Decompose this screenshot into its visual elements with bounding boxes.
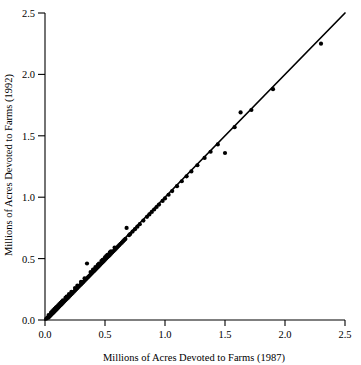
x-axis-tick-labels: 0.00.51.01.52.02.5 [38,329,351,340]
data-point [185,174,189,178]
x-axis: 0.00.51.01.52.02.5 [38,320,351,340]
data-point [180,179,184,183]
data-point [170,189,174,193]
y-tick-label: 1.5 [22,131,35,142]
data-point [125,226,129,230]
data-point [223,151,227,155]
y-tick-label: 1.0 [22,192,35,203]
data-point [85,261,89,265]
data-point [216,142,220,146]
y-tick-label: 2.5 [22,8,35,19]
data-point [271,87,275,91]
data-point [123,237,127,241]
scatter-plot-figure: 0.00.51.01.52.02.5 0.00.51.01.52.02.5 Mi… [0,0,361,365]
x-tick-label: 2.5 [338,329,351,340]
x-tick-label: 0.5 [98,329,111,340]
data-point [239,110,243,114]
y-tick-label: 0.5 [22,254,35,265]
data-point [138,222,142,226]
data-point [189,169,193,173]
y-axis-title: Millions of Acres Devoted to Farms (1992… [3,74,15,256]
y-tick-label: 0.0 [22,315,35,326]
data-point [209,150,213,154]
x-tick-label: 2.0 [278,329,291,340]
y-axis-ticks [38,13,45,320]
x-tick-label: 0.0 [38,329,51,340]
x-axis-title: Millions of Acres Devoted to Farms (1987… [103,352,285,364]
data-point [163,196,167,200]
data-point [203,156,207,160]
y-tick-label: 2.0 [22,69,35,80]
data-point [157,202,161,206]
data-point [249,108,253,112]
x-tick-label: 1.0 [158,329,171,340]
plot-area [44,13,345,321]
data-point [141,218,145,222]
data-point [175,184,179,188]
y-axis-tick-labels: 0.00.51.01.52.02.5 [22,8,35,326]
x-axis-ticks [45,320,345,326]
x-tick-label: 1.5 [218,329,231,340]
data-point [167,193,171,197]
data-point [233,125,237,129]
y-axis: 0.00.51.01.52.02.5 [22,8,45,326]
data-point [195,163,199,167]
chart-canvas: 0.00.51.01.52.02.5 0.00.51.01.52.02.5 Mi… [0,0,361,365]
data-point [319,42,323,46]
data-point-series [44,42,323,321]
